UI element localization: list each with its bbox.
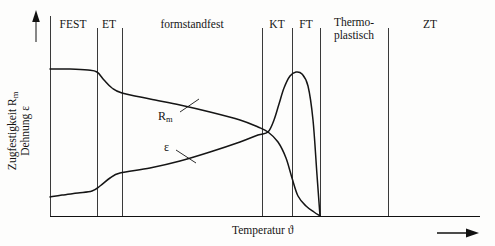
y-axis-label: Zugfestigkeit Rm Dehnung ε bbox=[6, 66, 32, 196]
zone-label-zt: ZT bbox=[370, 18, 490, 30]
curve-label-rm: Rm bbox=[158, 110, 173, 123]
y-axis-label-line-2: Dehnung ε bbox=[19, 66, 32, 196]
curve-label-epsilon: ε bbox=[164, 141, 169, 154]
curve-rm bbox=[50, 69, 320, 216]
figure-container: FESTETformstandfestKTFTThermo-plastischZ… bbox=[0, 0, 495, 246]
axes-group bbox=[32, 10, 480, 238]
right-arrow-icon bbox=[437, 229, 479, 238]
y-axis-label-line-1: Zugfestigkeit Rm bbox=[6, 66, 19, 196]
diagram-canvas bbox=[0, 0, 495, 246]
x-axis-label: Temperatur ϑ bbox=[232, 224, 293, 236]
curves-group bbox=[50, 69, 320, 216]
